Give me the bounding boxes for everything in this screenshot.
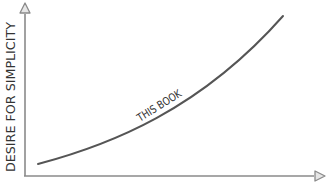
this-book-curve [38,16,283,164]
sketch-chart: DESIRE FOR SIMPLICITY THIS BOOK [0,0,328,188]
x-axis [24,171,325,181]
y-axis-arrow-icon [20,3,30,13]
x-axis-arrow-icon [315,171,325,181]
y-axis-label: DESIRE FOR SIMPLICITY [4,21,18,172]
y-axis [20,3,30,176]
